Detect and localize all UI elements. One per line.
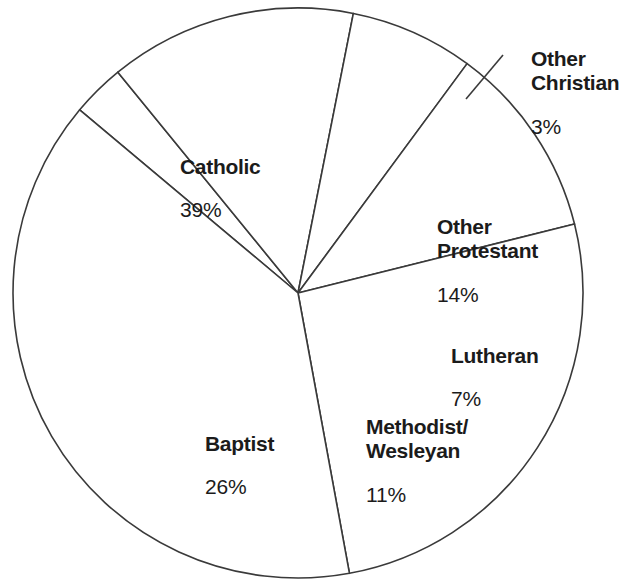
pie-label-catholic-value: 39%	[180, 198, 260, 222]
pie-label-lutheran-name: Lutheran	[451, 344, 538, 368]
pie-label-baptist: Baptist 26%	[205, 413, 274, 518]
pie-label-other-christian: Other Christian 3%	[531, 28, 643, 158]
pie-label-baptist-value: 26%	[205, 475, 274, 499]
pie-label-other-christian-value: 3%	[531, 115, 643, 139]
pie-label-other-christian-name: Other Christian	[531, 47, 643, 96]
pie-chart-figure: Catholic 39% Other Christian 3% Other Pr…	[0, 0, 643, 585]
pie-label-catholic-name: Catholic	[180, 155, 260, 179]
pie-label-baptist-name: Baptist	[205, 432, 274, 456]
pie-label-methodist-wesleyan-name: Methodist/ Wesleyan	[366, 415, 468, 464]
pie-label-methodist-wesleyan: Methodist/ Wesleyan 11%	[366, 396, 468, 526]
pie-label-catholic: Catholic 39%	[180, 136, 260, 241]
pie-label-other-protestant-name: Other Protestant	[437, 215, 538, 264]
pie-label-methodist-wesleyan-value: 11%	[366, 483, 468, 507]
pie-label-other-protestant: Other Protestant 14%	[437, 196, 538, 326]
pie-label-other-protestant-value: 14%	[437, 283, 538, 307]
